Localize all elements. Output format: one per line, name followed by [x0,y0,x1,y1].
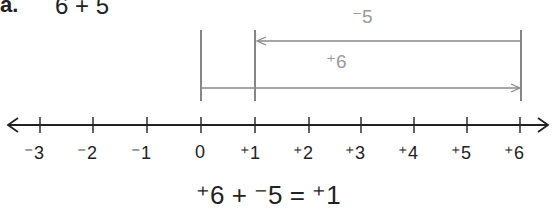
tick-label: ⁺5 [451,142,471,164]
tick-label: ⁻3 [24,142,44,164]
tick-label: ⁺4 [398,142,418,164]
tick-label: 0 [195,142,205,163]
tick-label: ⁺6 [504,142,524,164]
tick-label: ⁻2 [77,142,97,164]
tick-label: ⁺1 [240,142,260,164]
tick-label: ⁺3 [345,142,365,164]
positive-six-label: ⁺6 [326,50,347,73]
problem-label: a. [0,0,18,18]
problem-expression: 6 + 5 [55,0,109,20]
tick-label: ⁺2 [293,142,313,164]
result-equation: ⁺6 + ⁻5 = ⁺1 [196,180,341,211]
negative-five-label: ⁻5 [352,5,373,28]
tick-label: ⁻1 [131,142,151,164]
